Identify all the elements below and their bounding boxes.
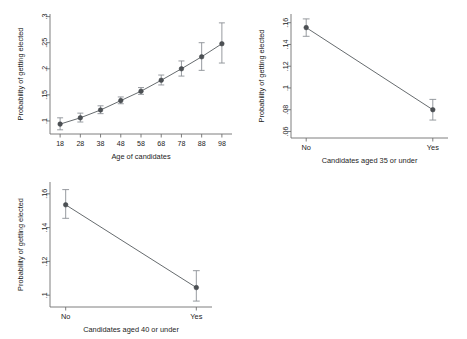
x-tick-label: 28 xyxy=(76,140,84,148)
y-tick-label: .16 xyxy=(41,189,49,199)
data-point-marker xyxy=(220,41,225,46)
x-axis-title: Age of candidates xyxy=(111,152,170,161)
chart-panel-aged-40-or-under: .1.12.14.16NoYesProbability of getting e… xyxy=(0,168,250,339)
x-tick-label: 38 xyxy=(97,140,105,148)
y-tick-label: .08 xyxy=(282,105,290,115)
aged-35-or-under-plot: .06.08.1.12.14.16NoYesProbability of get… xyxy=(243,0,467,172)
x-tick-label: 98 xyxy=(218,140,226,148)
aged-40-or-under-plot: .1.12.14.16NoYesProbability of getting e… xyxy=(0,168,250,339)
data-point-marker xyxy=(194,285,199,290)
x-tick-label: 48 xyxy=(117,140,125,148)
data-point-marker xyxy=(139,89,144,94)
y-tick-label: .2 xyxy=(41,66,49,72)
y-axis-title: Probability of getting elected xyxy=(257,30,266,123)
x-axis-title: Candidates aged 40 or under xyxy=(83,325,179,334)
y-tick-label: .1 xyxy=(41,292,49,298)
age-of-candidates-plot: .1.15.2.25.3182838485868788898Probabilit… xyxy=(0,0,250,168)
data-point-marker xyxy=(199,54,204,59)
y-tick-label: .16 xyxy=(282,18,290,28)
data-point-marker xyxy=(78,116,83,121)
x-tick-label: 18 xyxy=(56,140,64,148)
x-tick-label: 58 xyxy=(137,140,145,148)
y-tick-label: .1 xyxy=(41,118,49,124)
y-tick-label: .1 xyxy=(282,85,290,91)
series-line xyxy=(306,28,433,110)
x-tick-label: 78 xyxy=(177,140,185,148)
x-axis-title: Candidates aged 35 or under xyxy=(322,156,418,165)
x-tick-label: Yes xyxy=(427,143,439,152)
y-axis-title: Probability of getting elected xyxy=(16,28,25,121)
y-tick-label: .3 xyxy=(41,14,49,20)
series-line xyxy=(60,44,222,124)
x-tick-label: Yes xyxy=(190,312,202,321)
x-tick-label: No xyxy=(301,143,310,152)
data-point-marker xyxy=(431,107,436,112)
data-point-marker xyxy=(98,108,103,113)
data-point-marker xyxy=(179,66,184,71)
series-line xyxy=(66,205,197,288)
y-tick-label: .14 xyxy=(41,223,49,233)
data-point-marker xyxy=(63,203,68,208)
y-tick-label: .12 xyxy=(282,61,290,71)
y-tick-label: .12 xyxy=(41,256,49,266)
y-tick-label: .14 xyxy=(282,39,290,49)
data-point-marker xyxy=(118,98,123,103)
chart-panel-aged-35-or-under: .06.08.1.12.14.16NoYesProbability of get… xyxy=(243,0,467,172)
x-tick-label: 68 xyxy=(157,140,165,148)
chart-panel-age-of-candidates: .1.15.2.25.3182838485868788898Probabilit… xyxy=(0,0,250,168)
x-tick-label: No xyxy=(61,312,70,321)
data-point-marker xyxy=(304,25,309,30)
data-point-marker xyxy=(159,78,164,83)
data-point-marker xyxy=(58,122,63,127)
y-tick-label: .25 xyxy=(41,38,49,48)
y-axis-title: Probability of getting elected xyxy=(16,198,25,291)
y-tick-label: .15 xyxy=(41,90,49,100)
y-tick-label: .06 xyxy=(282,126,290,136)
x-tick-label: 88 xyxy=(198,140,206,148)
